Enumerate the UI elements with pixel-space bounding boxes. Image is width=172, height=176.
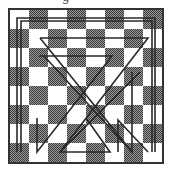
dark-square bbox=[10, 29, 29, 48]
light-square bbox=[124, 86, 143, 105]
dark-square bbox=[29, 86, 48, 105]
light-square bbox=[124, 124, 143, 143]
light-square bbox=[10, 124, 29, 143]
light-square bbox=[86, 86, 105, 105]
light-square bbox=[29, 143, 48, 162]
dark-square bbox=[67, 10, 86, 29]
dark-square bbox=[105, 48, 124, 67]
dark-square bbox=[10, 143, 29, 162]
dark-square bbox=[29, 10, 48, 29]
dark-square bbox=[48, 105, 67, 124]
light-square bbox=[124, 10, 143, 29]
light-square bbox=[48, 86, 67, 105]
dark-square bbox=[10, 105, 29, 124]
light-square bbox=[10, 86, 29, 105]
light-square bbox=[105, 67, 124, 86]
dark-square bbox=[67, 48, 86, 67]
light-square bbox=[29, 67, 48, 86]
light-square bbox=[86, 10, 105, 29]
dark-square bbox=[124, 67, 143, 86]
light-square bbox=[10, 48, 29, 67]
dark-square bbox=[29, 124, 48, 143]
light-square bbox=[48, 10, 67, 29]
light-square bbox=[10, 10, 29, 29]
checkerboard-diagram bbox=[0, 0, 172, 176]
dark-square bbox=[105, 10, 124, 29]
light-square bbox=[29, 105, 48, 124]
light-square bbox=[86, 48, 105, 67]
dark-square bbox=[124, 105, 143, 124]
board-squares bbox=[10, 10, 162, 162]
dark-square bbox=[10, 67, 29, 86]
